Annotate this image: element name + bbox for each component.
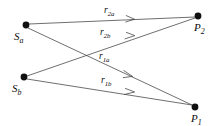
node-label-p1-subscript: 1: [198, 118, 202, 126]
ray-label-r2b-subscript: 2b: [104, 32, 111, 39]
node-dot-p2: [195, 13, 202, 20]
ray-label-r1b-subscript: 1b: [105, 80, 112, 87]
node-label-p2-subscript: 2: [201, 27, 205, 36]
nodes-group: [21, 13, 202, 111]
node-dot-sa: [23, 22, 30, 29]
node-label-p1-base: P: [191, 112, 198, 124]
ray-diagram: Sa Sb P2 P1 r2a r2b r1a r1b: [0, 0, 217, 126]
ray-label-r1a: r1a: [99, 52, 110, 64]
arrowhead-icon-r1a: [123, 71, 132, 78]
ray-label-r2a: r2a: [104, 6, 115, 18]
node-label-p2: P2: [194, 22, 205, 36]
arrowhead-icon-r2a: [126, 16, 135, 22]
node-dot-p1: [192, 104, 199, 111]
node-label-sb: Sb: [12, 83, 21, 97]
node-label-p2-base: P: [194, 21, 201, 33]
ray-lines-group: [27, 17, 195, 105]
arrowhead-icon-r2b: [125, 32, 135, 38]
ray-label-r1a-subscript: 1a: [103, 56, 110, 63]
node-label-sb-subscript: b: [18, 88, 22, 97]
ray-label-r2a-subscript: 2a: [108, 10, 115, 17]
ray-label-r2b: r2b: [100, 28, 111, 40]
arrow-heads-group: [123, 16, 135, 95]
ray-line-r2a: [29, 17, 195, 24]
arrowhead-icon-r1b: [125, 88, 135, 94]
node-label-sa: Sa: [14, 31, 23, 45]
node-dot-sb: [21, 74, 28, 81]
ray-label-r1b: r1b: [101, 76, 112, 88]
node-label-sa-subscript: a: [20, 36, 24, 45]
node-label-p1: P1: [191, 113, 202, 126]
